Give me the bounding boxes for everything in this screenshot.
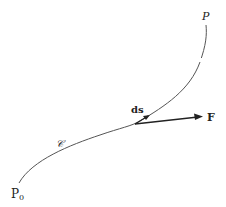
end-point-label: P xyxy=(201,10,210,23)
displacement-label: ds xyxy=(131,104,144,115)
line-integral-diagram: P0 P 𝒞 ds F xyxy=(0,0,226,207)
force-label: F xyxy=(207,111,215,124)
curve-label: 𝒞 xyxy=(56,138,66,149)
curve-gap xyxy=(196,58,202,62)
curve-path xyxy=(19,25,206,183)
start-point-label: P0 xyxy=(11,187,24,202)
